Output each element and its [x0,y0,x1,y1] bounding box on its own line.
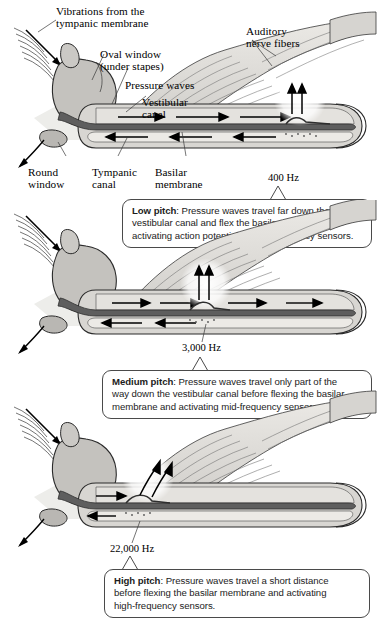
panel-low-pitch: Vibrations from the tympanic membrane Ov… [0,0,378,200]
nerve-trunk [330,200,376,230]
arrow-round-window-out [18,519,44,547]
caption-line: before flexing the basilar membrane and … [114,587,361,599]
label-auditory-nerve: Auditory nerve fibers [246,25,300,50]
caption-line: High pitch: Pressure waves travel a shor… [114,575,361,587]
arrow-round-window-out [18,326,44,354]
cochlea-drawing-high [0,375,378,560]
stapes-footplate [61,229,80,253]
arrow-incoming-vibration [26,216,61,252]
nerve-trunk [330,12,376,44]
panel-high-pitch: 22,000 Hz [0,375,378,560]
label-pressure-waves: Pressure waves [125,79,194,91]
label-tympanic-canal: Tympanic canal [92,166,137,191]
tympanic-canal-lumen [88,511,353,521]
label-vestibular-canal: Vestibular canal [142,96,188,121]
cochlea-pitch-figure: Vibrations from the tympanic membrane Ov… [0,0,378,619]
sound-wave-icon [14,214,55,268]
label-vibrations: Vibrations from the tympanic membrane [56,5,149,30]
frequency-label-medium: 3,000 Hz [182,342,221,353]
sound-wave-icon [14,28,55,82]
sound-wave-icon [14,407,55,461]
activation-flash [122,451,174,503]
caption-high-pitch: High pitch: Pressure waves travel a shor… [104,569,370,618]
round-window [40,316,67,333]
stapes-footplate [61,43,80,67]
round-window [40,509,67,526]
frequency-label-high: 22,000 Hz [110,543,154,554]
stapes-footplate [61,422,80,446]
arrow-incoming-vibration [26,30,61,66]
frequency-label-low: 400 Hz [268,172,299,183]
label-round-window: Round window [28,166,64,191]
panel-medium-pitch: 3,000 Hz [0,200,378,375]
arrow-round-window-out [18,140,44,168]
round-window [40,130,67,147]
nerve-trunk [330,391,376,423]
label-basilar-membrane: Basilar membrane [155,166,203,191]
caption-line: high-frequency sensors. [114,600,361,612]
arrow-incoming-vibration [26,409,61,445]
label-oval-window: Oval window (under stapes) [100,48,164,73]
